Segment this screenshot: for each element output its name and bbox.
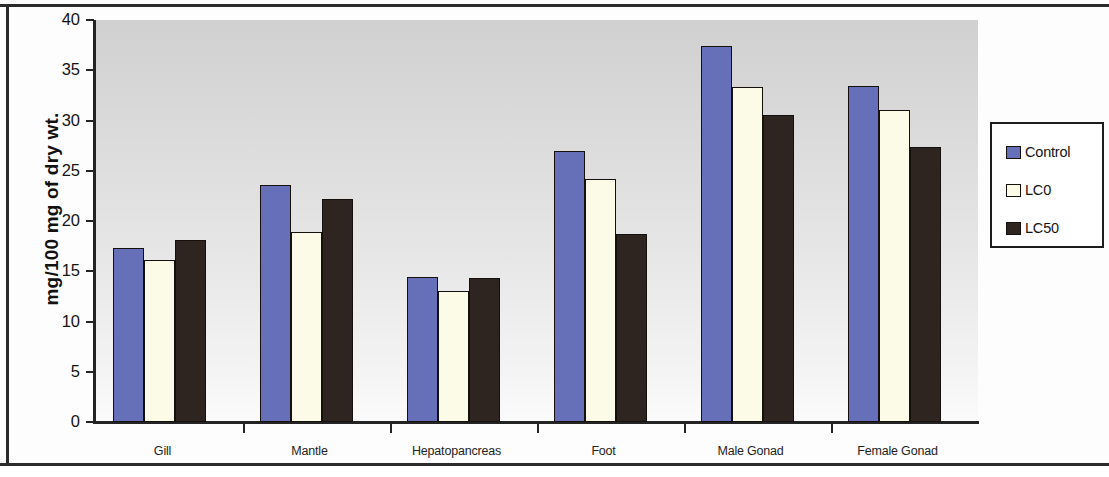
scan-margin-bottom xyxy=(0,468,1109,477)
x-axis-tick xyxy=(537,423,539,433)
legend-swatch-icon xyxy=(1006,222,1021,235)
x-axis-category-label: Foot xyxy=(591,444,615,458)
legend-item-label: LC50 xyxy=(1025,220,1059,236)
figure-frame: 4035302520151050 GillMantleHepatopancrea… xyxy=(0,0,1109,477)
x-axis-category-label: Male Gonad xyxy=(717,444,783,458)
bar xyxy=(763,115,794,422)
y-axis-tick xyxy=(86,69,94,71)
legend-swatch-icon xyxy=(1006,184,1021,197)
y-axis-tick xyxy=(86,270,94,272)
bar xyxy=(585,179,616,422)
bar xyxy=(616,234,647,422)
plot-area xyxy=(96,20,978,422)
x-axis-tick xyxy=(684,423,686,433)
legend-item-label: LC0 xyxy=(1025,182,1051,198)
bar xyxy=(701,46,732,422)
x-axis-line xyxy=(93,421,979,424)
bar xyxy=(144,260,175,422)
x-axis-category-label: Female Gonad xyxy=(857,444,937,458)
legend-item: Control xyxy=(1006,144,1070,160)
legend-item-label: Control xyxy=(1025,144,1070,160)
y-axis-tick xyxy=(86,170,94,172)
y-axis-line xyxy=(93,20,96,424)
y-axis-tick-label: 40 xyxy=(36,10,80,29)
x-axis-category-label: Mantle xyxy=(291,444,327,458)
y-axis-tick xyxy=(86,19,94,21)
y-axis-tick-label: 5 xyxy=(36,362,80,381)
x-axis-category-label: Hepatopancreas xyxy=(412,444,501,458)
y-axis-tick xyxy=(86,120,94,122)
x-axis-tick xyxy=(831,423,833,433)
legend-swatch-icon xyxy=(1006,146,1021,159)
bar xyxy=(260,185,291,422)
bar xyxy=(322,199,353,422)
bar-chart: 4035302520151050 GillMantleHepatopancrea… xyxy=(0,0,1109,477)
bar xyxy=(469,278,500,422)
chart-legend: ControlLC0LC50 xyxy=(990,122,1104,248)
bar xyxy=(732,87,763,422)
y-axis-tick xyxy=(86,220,94,222)
bar xyxy=(438,291,469,422)
legend-item: LC50 xyxy=(1006,220,1059,236)
y-axis-tick-label: 35 xyxy=(36,60,80,79)
bar xyxy=(910,147,941,422)
bar xyxy=(113,248,144,422)
x-axis-tick xyxy=(243,423,245,433)
x-axis-category-label: Gill xyxy=(154,444,171,458)
y-axis-tick-label: 0 xyxy=(36,412,80,431)
y-axis-tick xyxy=(86,321,94,323)
y-axis-title: mg/100 mg of dry wt. xyxy=(41,79,63,339)
y-axis-tick xyxy=(86,421,94,423)
x-axis-tick xyxy=(390,423,392,433)
bar xyxy=(879,110,910,422)
bar xyxy=(175,240,206,422)
legend-item: LC0 xyxy=(1006,182,1051,198)
bar xyxy=(407,277,438,422)
bar xyxy=(291,232,322,422)
y-axis-tick xyxy=(86,371,94,373)
bar xyxy=(554,151,585,422)
bar xyxy=(848,86,879,422)
